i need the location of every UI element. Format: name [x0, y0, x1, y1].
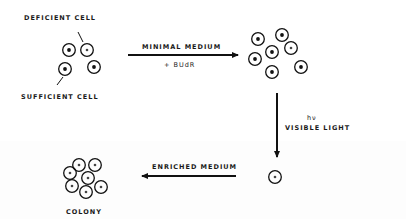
- stage-after-growth: [249, 29, 308, 79]
- sufficient-cell-icon: [266, 46, 279, 59]
- sufficient-cell-icon: [252, 33, 265, 46]
- sufficient-cell-label: SUFFICIENT CELL: [21, 93, 99, 101]
- deficient-cell-icon: [66, 180, 79, 193]
- sufficient-cell-icon: [88, 61, 101, 74]
- sufficient-cell-icon: [249, 53, 262, 66]
- deficient-cell-icon: [285, 42, 298, 55]
- stage-initial-mixture: [59, 44, 101, 76]
- sufficient-cell-icon: [63, 44, 76, 57]
- hv-label: hν: [307, 114, 317, 122]
- stage-survivor: [269, 171, 282, 184]
- deficient-pointer-line: [78, 32, 83, 42]
- sufficient-cell-icon: [295, 61, 308, 74]
- deficient-cell-icon: [81, 44, 94, 57]
- sufficient-pointer-line: [57, 77, 63, 85]
- deficient-cell-icon: [82, 172, 95, 185]
- deficient-cell-icon: [269, 171, 282, 184]
- stage-colony: [64, 159, 108, 199]
- diagram-canvas: [0, 0, 406, 219]
- deficient-cell-label: DEFICIENT CELL: [24, 14, 96, 22]
- visible-light-label: VISIBLE LIGHT: [285, 124, 350, 132]
- deficient-cell-icon: [80, 186, 93, 199]
- deficient-cell-icon: [89, 159, 102, 172]
- minimal-medium-label: MINIMAL MEDIUM: [142, 43, 221, 51]
- sufficient-cell-icon: [276, 29, 289, 42]
- enriched-medium-label: ENRICHED MEDIUM: [152, 163, 237, 171]
- sufficient-cell-icon: [266, 66, 279, 79]
- sufficient-cell-icon: [59, 63, 72, 76]
- deficient-cell-icon: [64, 167, 77, 180]
- colony-label: COLONY: [66, 208, 102, 216]
- budr-label: + BUdR: [164, 61, 195, 69]
- deficient-cell-icon: [95, 181, 108, 194]
